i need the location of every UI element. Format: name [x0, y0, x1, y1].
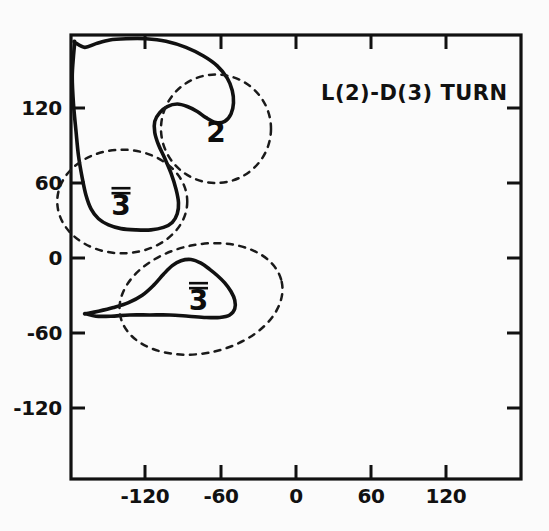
- x-tick-label: 120: [426, 484, 467, 508]
- conformational-map-plot: 120 60 0 -60 -120 -120 -60 0 60 120 L(2)…: [0, 0, 549, 531]
- x-tick-label: 0: [289, 484, 303, 508]
- x-axis-ticks-bottom: [145, 465, 446, 479]
- region-annotation-layer: 233: [111, 116, 225, 317]
- y-axis-tick-labels: 120 60 0 -60 -120: [13, 96, 62, 420]
- figure-root: 120 60 0 -60 -120 -120 -60 0 60 120 L(2)…: [0, 0, 549, 531]
- contour-layer: [57, 38, 293, 369]
- x-tick-label: -120: [121, 484, 170, 508]
- y-tick-label: 0: [48, 246, 62, 270]
- plot-title: L(2)-D(3) TURN: [321, 81, 508, 105]
- region-label-2: 2: [206, 116, 225, 149]
- x-tick-label: -60: [203, 484, 238, 508]
- y-tick-label: 120: [21, 96, 62, 120]
- x-axis-tick-labels: -120 -60 0 60 120: [121, 484, 467, 508]
- y-tick-label: -60: [27, 321, 62, 345]
- y-tick-label: -120: [13, 396, 62, 420]
- x-axis-ticks-top: [145, 35, 446, 49]
- x-tick-label: 60: [357, 484, 384, 508]
- lower-allowed-region: [85, 259, 236, 317]
- y-axis-ticks-right: [507, 108, 521, 408]
